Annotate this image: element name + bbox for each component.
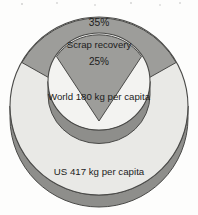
- concentric-pie-chart-figure: 35% Scrap recovery 25% World 180 kg per …: [0, 0, 198, 215]
- outer-value-label: US 417 kg per capita: [54, 166, 145, 177]
- outer-percent-label: 35%: [89, 17, 109, 28]
- wedge-percent-label: 25%: [89, 56, 109, 67]
- inner-value-label: World 180 kg per capita: [48, 91, 151, 102]
- wedge-title-label: Scrap recovery: [67, 39, 132, 50]
- chart-svg: 35% Scrap recovery 25% World 180 kg per …: [0, 0, 198, 215]
